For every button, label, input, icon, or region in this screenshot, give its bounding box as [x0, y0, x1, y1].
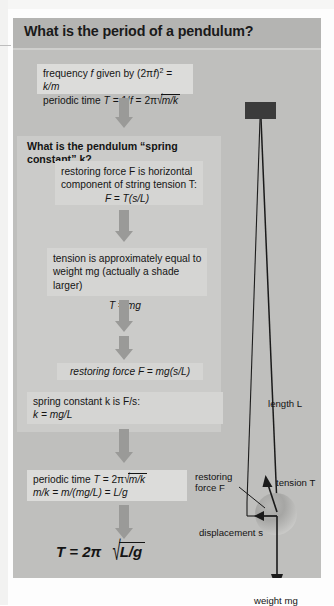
scan-artifact-rule	[0, 45, 11, 46]
flow-step-frequency-line1: frequency f given by (2πf)2 = k/m	[43, 67, 187, 94]
tension-arrow-head	[263, 475, 273, 487]
radical-sign-2: √	[124, 470, 130, 488]
flow-step-frequency: frequency f given by (2πf)2 = k/m period…	[37, 64, 193, 94]
pendulum-diagram: length L tension T restoring force F dis…	[221, 50, 321, 578]
flow-step-spring-constant: spring constant k is F/s: k = mg/L	[27, 392, 223, 424]
flow-step-restoring-component-line1: restoring force F is horizontal	[61, 165, 203, 178]
flow-step-tension-line2: weight mg (actually a shade larger)	[53, 265, 207, 292]
flow-step-restoring-component-line3: F = T(s/L)	[61, 192, 203, 205]
flow-arrow-6	[114, 505, 134, 539]
figure-title: What is the period of a pendulum?	[24, 23, 253, 39]
flow-arrow-5	[114, 429, 134, 463]
radical-sign-3: √	[112, 535, 120, 566]
flow-step-spring-constant-line2: k = mg/L	[33, 408, 223, 421]
scan-artifact-left	[0, 0, 8, 605]
figure-panel: What is the period of a pendulum? freque…	[13, 18, 321, 578]
pivot-block	[245, 102, 276, 119]
final-result-equation: T = 2π √L/g	[56, 543, 145, 560]
flow-step-restoring-component-line2: component of string tension T:	[61, 178, 203, 191]
label-restoring-force: restoring force F	[195, 471, 232, 493]
pendulum-svg	[221, 50, 321, 578]
restoring-force-leader-line	[239, 487, 265, 508]
flow-step-periodic-substitution-line1: periodic time T = 2π√m/k	[33, 473, 187, 486]
pendulum-string	[261, 119, 277, 505]
vertical-reference-line	[247, 119, 260, 502]
flow-step-spring-constant-line1: spring constant k is F/s:	[33, 395, 223, 408]
flow-step-periodic-substitution: periodic time T = 2π√m/k m/k = m/(mg/L) …	[27, 470, 187, 501]
flow-arrow-4	[114, 336, 134, 360]
flow-step-periodic-substitution-line2: m/k = m/(mg/L) = L/g	[33, 486, 187, 499]
flow-step-restoring-component: restoring force F is horizontal componen…	[55, 161, 203, 205]
flow-arrow-3	[114, 300, 134, 332]
radical-sign: √	[157, 91, 163, 109]
scan-artifact-top	[0, 0, 334, 9]
flow-arrow-1	[114, 98, 134, 128]
label-weight: weight mg	[254, 595, 298, 606]
flow-step-restoring-result: restoring force F = mg(s/L)	[57, 363, 203, 380]
label-displacement: displacement s	[199, 527, 263, 538]
flow-subheading: What is the pendulum “spring constant” k…	[27, 136, 223, 156]
flow-step-tension-line1: tension is approximately equal to	[53, 252, 207, 265]
label-tension: tension T	[276, 477, 315, 488]
label-length: length L	[268, 398, 302, 409]
weight-arrow-head	[271, 574, 283, 578]
flow-step-tension: tension is approximately equal to weight…	[47, 248, 207, 296]
flow-arrow-2	[114, 210, 134, 242]
